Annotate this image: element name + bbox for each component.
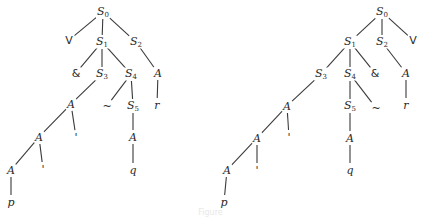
node-subscript: 4 (133, 73, 137, 81)
tree-node-s0: S0 (375, 6, 389, 19)
tree-edge (40, 144, 42, 162)
node-label: V (409, 34, 417, 47)
node-subscript: 4 (352, 73, 356, 81)
tree-node-s5: S5 (126, 100, 140, 113)
tree-node-v: V (408, 35, 418, 46)
tree-edge (140, 48, 154, 68)
tree-edge (386, 48, 401, 68)
node-label: ' (287, 131, 290, 144)
tree-node-prime2: ' (40, 164, 45, 175)
tree-node-s2: S2 (129, 36, 143, 49)
tree-edge (102, 19, 103, 35)
node-label: ' (255, 164, 258, 177)
node-label: A (223, 164, 231, 177)
tree-edge (354, 47, 370, 67)
node-label: S (127, 99, 135, 112)
tree-node-a-r: A (401, 68, 411, 79)
tree-node-s2: S2 (375, 36, 389, 49)
tree-node-q: q (128, 165, 137, 176)
tree-node-a1: A (282, 101, 292, 112)
tree-edge (225, 177, 227, 195)
node-label: A (35, 131, 43, 144)
node-label: ' (74, 131, 77, 144)
parse-tree-figure: S0VS1S2&S3S4AA~S5rA'AA'qp S0S1S2VS3S4&AA… (0, 0, 421, 221)
tree-node-a3: A (222, 165, 232, 176)
tree-edge (72, 111, 75, 130)
node-subscript: 0 (105, 11, 109, 19)
tree-node-a-r: A (153, 68, 163, 79)
tree-node-a3: A (6, 165, 16, 176)
tree-node-amp: & (370, 68, 381, 79)
node-subscript: 5 (352, 105, 356, 113)
tree-edge (387, 17, 408, 36)
tree-node-prime1: ' (73, 132, 78, 143)
node-label: A (129, 131, 137, 144)
node-label: A (67, 98, 75, 111)
node-label: S (376, 35, 384, 48)
node-label: S (97, 5, 105, 18)
tree-edge (262, 111, 282, 133)
tree-edge (131, 81, 132, 99)
node-label: S (130, 35, 138, 48)
tree-node-s0: S0 (96, 6, 110, 19)
node-label: ~ (102, 100, 111, 113)
tree-edge (326, 47, 346, 69)
node-label: q (346, 164, 353, 177)
tree-node-prime2: ' (254, 165, 259, 176)
tree-edge (232, 143, 252, 165)
tree-node-q: q (345, 165, 354, 176)
tree-node-tilde: ~ (370, 103, 381, 114)
tree-edges (0, 0, 421, 221)
tree-node-s1: S1 (95, 36, 109, 49)
node-subscript: 1 (352, 41, 356, 49)
tree-edge (292, 79, 316, 101)
node-label: r (403, 99, 408, 112)
node-subscript: 3 (104, 73, 108, 81)
tree-edge (107, 47, 127, 69)
tree-node-s4: S4 (124, 68, 138, 81)
tree-node-a2: A (252, 133, 262, 144)
tree-node-v: V (64, 35, 74, 46)
tree-edge (287, 113, 288, 130)
tree-node-amp: & (71, 68, 82, 79)
tree-edge (80, 47, 97, 67)
node-label: A (253, 132, 261, 145)
tree-node-s3: S3 (314, 68, 328, 81)
node-subscript: 0 (384, 11, 388, 19)
tree-node-s4: S4 (343, 68, 357, 81)
tree-edge (157, 80, 158, 98)
node-label: S (96, 67, 104, 80)
node-label: S (344, 35, 352, 48)
node-label: & (72, 67, 81, 80)
node-label: ' (41, 163, 44, 176)
tree-edge (355, 17, 377, 37)
tree-node-a2: A (34, 132, 44, 143)
node-label: r (154, 99, 159, 112)
node-label: A (283, 100, 291, 113)
node-subscript: 5 (135, 105, 139, 113)
tree-node-s5: S5 (343, 100, 357, 113)
node-label: q (129, 164, 136, 177)
node-label: A (154, 67, 162, 80)
tree-node-p: p (6, 197, 15, 208)
node-label: p (7, 196, 14, 209)
node-label: & (371, 67, 380, 80)
figure-caption: Figure (0, 208, 421, 217)
node-label: S (344, 99, 352, 112)
tree-node-s3: S3 (95, 68, 109, 81)
node-label: S (125, 67, 133, 80)
node-label: S (344, 67, 352, 80)
tree-node-r: r (402, 100, 409, 111)
node-label: A (346, 132, 354, 145)
node-label: p (220, 196, 227, 209)
tree-edge (76, 79, 97, 99)
tree-node-p: p (219, 197, 228, 208)
node-label: A (7, 164, 15, 177)
node-label: ~ (371, 102, 380, 115)
tree-node-a-q: A (128, 132, 138, 143)
tree-edge (111, 80, 127, 101)
tree-edge (16, 142, 35, 164)
node-subscript: 3 (323, 73, 327, 81)
tree-node-r: r (153, 100, 160, 111)
tree-node-a1: A (66, 99, 76, 110)
